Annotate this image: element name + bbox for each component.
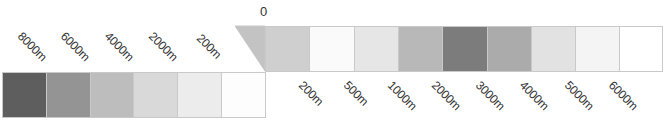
depth-label: 200m <box>195 32 224 61</box>
elevation-swatch-3000m <box>442 26 488 72</box>
elevation-swatch-6000m <box>575 26 620 72</box>
depth-swatch-6000m <box>46 72 91 118</box>
depth-swatch-8000m <box>2 72 47 118</box>
depth-label: 6000m <box>59 30 92 63</box>
elevation-label: 200m <box>297 79 326 108</box>
elevation-label: 1000m <box>386 79 419 112</box>
depth-swatch-200m <box>177 72 222 118</box>
elevation-label: 2000m <box>430 79 463 112</box>
depth-swatch-2000m <box>133 72 178 118</box>
depth-label: 2000m <box>147 30 180 63</box>
elevation-swatch-top <box>619 26 663 72</box>
elevation-swatch-1000m <box>354 26 399 72</box>
elevation-swatch-4000m <box>487 26 532 72</box>
depth-swatch-4000m <box>90 72 135 118</box>
elevation-label: 4000m <box>518 79 551 112</box>
elevation-label: 500m <box>342 79 371 108</box>
elevation-swatch-5000m <box>531 26 576 72</box>
elevation-swatch-200m <box>265 26 310 72</box>
depth-label: 4000m <box>103 30 136 63</box>
depth-swatch-0m <box>221 72 266 118</box>
depth-label: 8000m <box>16 30 49 63</box>
elevation-swatch-500m <box>309 26 355 72</box>
elevation-label: 3000m <box>474 79 507 112</box>
elevation-label: 5000m <box>563 79 596 112</box>
elevation-swatch-2000m <box>398 26 443 72</box>
sea-level-wedge <box>234 25 266 73</box>
elevation-label: 6000m <box>607 79 640 112</box>
zero-level-label: 0 <box>260 4 267 19</box>
